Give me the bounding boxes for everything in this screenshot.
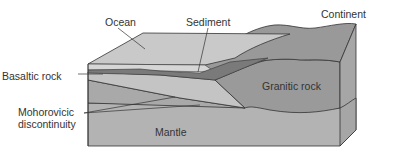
label-moho-2: discontinuity bbox=[18, 118, 76, 130]
label-sediment: Sediment bbox=[186, 16, 230, 28]
label-basaltic-rock: Basaltic rock bbox=[2, 70, 62, 82]
label-ocean: Ocean bbox=[105, 16, 136, 28]
label-mantle: Mantle bbox=[155, 126, 187, 138]
label-moho-1: Mohorovicic bbox=[18, 106, 74, 118]
label-granitic-rock: Granitic rock bbox=[262, 80, 321, 92]
label-continent: Continent bbox=[321, 8, 366, 20]
